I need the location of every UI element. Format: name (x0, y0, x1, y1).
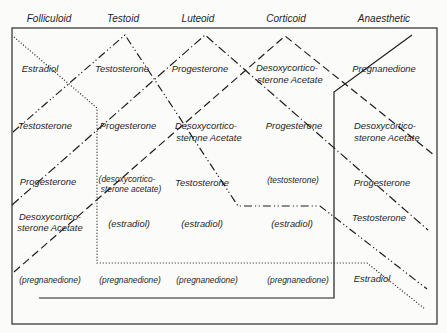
cell-label: Desoxycortico- (354, 120, 416, 131)
header-luteoid: Luteoid (182, 13, 215, 24)
header-testoid: Testoid (107, 13, 139, 24)
compound-traces (12, 35, 434, 309)
cell-label: Progesterone (100, 120, 156, 131)
cell-label: Desoxycortico- (19, 211, 81, 222)
header-anaesthetic: Anaesthetic (357, 13, 410, 24)
cell-label: (pregnanedione) (99, 275, 161, 285)
cell-label: (estradiol) (271, 218, 313, 229)
header-folliculoid: Folliculoid (27, 13, 72, 24)
cell-label: (pregnanedione) (267, 275, 329, 285)
cell-label: (pregnanedione) (19, 275, 81, 285)
header-corticoid: Corticoid (266, 13, 306, 24)
column-headers: Folliculoid Testoid Luteoid Corticoid An… (27, 13, 410, 24)
cell-label: (estradiol) (181, 218, 223, 229)
row-5: (pregnanedione) (pregnanedione) (pregnan… (19, 273, 391, 285)
row-4: Desoxycortico- sterone Acetate (estradio… (17, 211, 406, 233)
cell-label: sterone Acetate (176, 132, 241, 143)
cell-label: Progesterone (20, 176, 76, 187)
cell-label: sterone acetate) (101, 184, 162, 194)
row-2: Testosterone Progesterone Desoxycortico-… (18, 120, 420, 143)
cell-label: Progesterone (266, 120, 322, 131)
cell-label: sterone Acetate (354, 132, 419, 143)
cell-label: Testosterone (352, 212, 406, 223)
cell-label: sterone Acetate (257, 74, 322, 85)
cell-label: Progesterone (354, 177, 410, 188)
cell-label: (pregnanedione) (176, 275, 238, 285)
cell-label: (testosterone) (267, 175, 319, 185)
cell-label: (desoxycortico- (99, 174, 156, 184)
cell-label: Desoxycortico- (256, 62, 318, 73)
cell-label: Estradiol (354, 273, 391, 284)
cell-label: Testosterone (175, 177, 229, 188)
cell-label: Progesterone (172, 63, 228, 74)
hormone-activity-diagram: Folliculoid Testoid Luteoid Corticoid An… (0, 0, 447, 333)
cell-label: Estradiol (22, 63, 59, 74)
cell-label: sterone Acetate (17, 222, 82, 233)
cell-label: Pregnanedione (352, 63, 416, 74)
row-1: Estradiol Testosterone Progesterone Deso… (22, 62, 416, 85)
cell-label: Testosterone (95, 63, 149, 74)
row-3: Progesterone (desoxycortico- sterone ace… (20, 174, 410, 194)
cell-label: Desoxycortico- (175, 120, 237, 131)
cell-label: (estradiol) (108, 218, 150, 229)
cell-label: Testosterone (18, 120, 72, 131)
